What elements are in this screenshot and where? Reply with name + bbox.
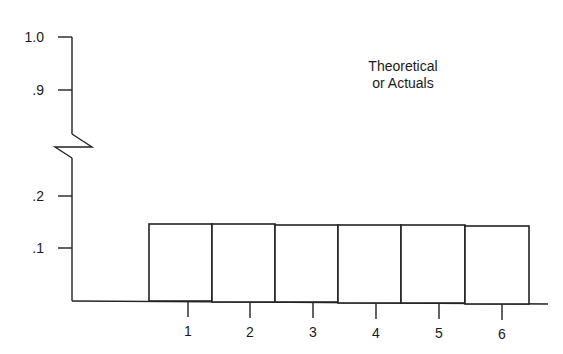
bar-2: [212, 224, 275, 302]
annotation-line-1: Theoretical: [368, 58, 437, 74]
chart: 1.0 .9 .2 .1 1 2 3 4 5 6 Theoretical or …: [0, 0, 563, 354]
y-tick-label: .1: [32, 240, 44, 256]
bar-5: [401, 225, 465, 303]
axis-break-icon: [55, 134, 92, 158]
x-tick-label: 3: [309, 324, 317, 340]
x-tick-label: 5: [435, 325, 443, 341]
bars: [149, 224, 529, 304]
bar-3: [275, 225, 338, 302]
bar-1: [149, 224, 212, 301]
annotation-line-2: or Actuals: [372, 75, 433, 91]
bar-6: [465, 226, 529, 304]
x-tick-label: 6: [498, 326, 506, 342]
y-tick-label: .2: [32, 188, 44, 204]
x-tick-label: 4: [372, 325, 380, 341]
bar-4: [338, 225, 401, 303]
y-ticks: [58, 37, 72, 248]
y-tick-label: .9: [32, 82, 44, 98]
y-tick-label: 1.0: [25, 29, 45, 45]
x-tick-label: 1: [184, 323, 192, 339]
x-tick-label: 2: [246, 324, 254, 340]
